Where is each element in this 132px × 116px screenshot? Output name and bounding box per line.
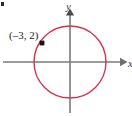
x-axis-label: x [128, 58, 132, 69]
plotted-point-marker [40, 41, 45, 46]
x-axis-arrowhead [120, 58, 128, 66]
circle-graph-figure: y x (–3, 2) [0, 0, 132, 116]
y-axis-label: y [66, 1, 71, 12]
coordinate-plane-svg [0, 0, 132, 116]
point-coordinate-label: (–3, 2) [9, 30, 38, 41]
